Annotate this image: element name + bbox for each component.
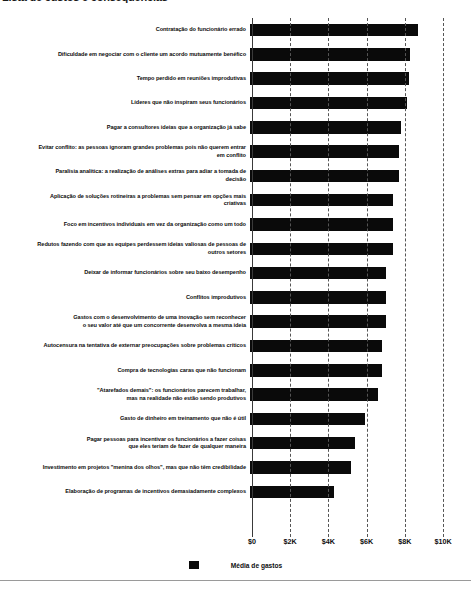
bar-track [250,212,471,236]
bar-row: Líderes que não inspiram seus funcionári… [0,91,471,115]
bar-media-de-gastos [250,145,399,158]
bar-media-de-gastos [250,315,386,328]
bar-media-de-gastos [250,243,393,256]
x-tick-label: $2K [284,537,297,546]
bar-category-label: Investimento em projetos "menina dos olh… [0,464,250,472]
chart-page: Lista de custos e consequências Contrata… [0,0,471,591]
bar-category-label: Pagar a consultores ideias que a organiz… [0,124,250,132]
bar-row: Foco em incentivos individuais em vez da… [0,212,471,236]
bar-track [250,115,471,139]
bar-row: Paralisia analítica: a realização de aná… [0,164,471,188]
bar-row: Elaboração de programas de incentivos de… [0,480,471,504]
bar-row: Evitar conflito: as pessoas ignoram gran… [0,139,471,163]
bar-row: Gasto de dinheiro em treinamento que não… [0,407,471,431]
bar-row: Deixar de informar funcionários sobre se… [0,261,471,285]
bar-row: Pagar pessoas para incentivar os funcion… [0,431,471,455]
bar-track [250,407,471,431]
bar-category-label: Gasto de dinheiro em treinamento que não… [0,415,250,423]
bar-category-label: Tempo perdido em reuniões improdutivas [0,75,250,83]
bar-track [250,310,471,334]
bar-row: Contratação do funcionário errado [0,18,471,42]
bar-row: "Atarefados demais": os funcionários par… [0,382,471,406]
bar-media-de-gastos [250,218,393,231]
bar-track [250,480,471,504]
bar-category-label: Elaboração de programas de incentivos de… [0,488,250,496]
bar-media-de-gastos [250,364,382,377]
bar-media-de-gastos [250,486,334,499]
bar-track [250,455,471,479]
bar-category-label: Pagar pessoas para incentivar os funcion… [0,436,250,451]
bar-track [250,91,471,115]
bar-track [250,358,471,382]
bar-track [250,261,471,285]
bar-media-de-gastos [250,48,410,61]
x-tick-label: $0 [248,537,256,546]
bar-media-de-gastos [250,24,418,37]
bar-category-label: Aplicação de soluções rotineiras a probl… [0,193,250,208]
bar-media-de-gastos [250,267,386,280]
bar-track [250,164,471,188]
bar-track [250,382,471,406]
bar-media-de-gastos [250,97,407,110]
bar-track [250,431,471,455]
bottom-divider [0,580,471,581]
legend-label-media-de-gastos: Média de gastos [231,562,282,569]
bar-category-label: Deixar de informar funcionários sobre se… [0,269,250,277]
bar-row: Aplicação de soluções rotineiras a probl… [0,188,471,212]
bar-track [250,18,471,42]
bar-row: Pagar a consultores ideias que a organiz… [0,115,471,139]
x-tick-label: $4K [322,537,335,546]
bar-category-label: Autocensura na tentativa de externar pre… [0,342,250,350]
bar-row: Dificuldade em negociar com o cliente um… [0,42,471,66]
bar-media-de-gastos [250,340,382,353]
bar-category-label: Gastos com o desenvolvimento de uma inov… [0,314,250,329]
bar-track [250,237,471,261]
bar-media-de-gastos [250,413,365,426]
bar-row: Investimento em projetos "menina dos olh… [0,455,471,479]
x-tick-label: $8K [398,537,411,546]
bar-media-de-gastos [250,170,399,183]
bar-track [250,67,471,91]
bar-track [250,285,471,309]
bar-row: Redutos fazendo com que as equipes perde… [0,237,471,261]
bar-row: Tempo perdido em reuniões improdutivas [0,67,471,91]
bar-media-de-gastos [250,291,386,304]
bar-category-label: Foco em incentivos individuais em vez da… [0,221,250,229]
bar-category-label: Contratação do funcionário errado [0,26,250,34]
bar-row: Autocensura na tentativa de externar pre… [0,334,471,358]
bar-media-de-gastos [250,461,351,474]
x-tick-label: $6K [360,537,373,546]
bar-category-label: Paralisia analítica: a realização de aná… [0,168,250,183]
horizontal-bar-chart: Contratação do funcionário erradoDificul… [0,18,471,537]
bar-category-label: Líderes que não inspiram seus funcionári… [0,99,250,107]
bar-category-label: Evitar conflito: as pessoas ignoram gran… [0,144,250,159]
bar-track [250,188,471,212]
bar-category-label: Conflitos improdutivos [0,294,250,302]
bar-row: Compra de tecnologias caras que não func… [0,358,471,382]
bar-media-de-gastos [250,388,378,401]
bar-category-label: Redutos fazendo com que as equipes perde… [0,241,250,256]
bar-category-label: "Atarefados demais": os funcionários par… [0,387,250,402]
page-title: Lista de custos e consequências [2,0,168,3]
bar-track [250,334,471,358]
chart-legend: Média de gastos [0,558,471,572]
bar-media-de-gastos [250,194,393,207]
bar-row: Gastos com o desenvolvimento de uma inov… [0,310,471,334]
bar-category-label: Compra de tecnologias caras que não func… [0,367,250,375]
bar-row: Conflitos improdutivos [0,285,471,309]
x-axis-tick-labels: $0$2K$4K$6K$8K$10K [0,537,471,553]
bar-track [250,42,471,66]
bar-rows: Contratação do funcionário erradoDificul… [0,18,471,504]
chart-title-clipped: Lista de custos e consequências [0,0,471,9]
bar-media-de-gastos [250,437,355,450]
bar-track [250,139,471,163]
legend-swatch-media-de-gastos [189,561,199,569]
bar-media-de-gastos [250,121,401,134]
bar-media-de-gastos [250,72,409,85]
x-tick-label: $10K [434,537,451,546]
bar-category-label: Dificuldade em negociar com o cliente um… [0,51,250,59]
